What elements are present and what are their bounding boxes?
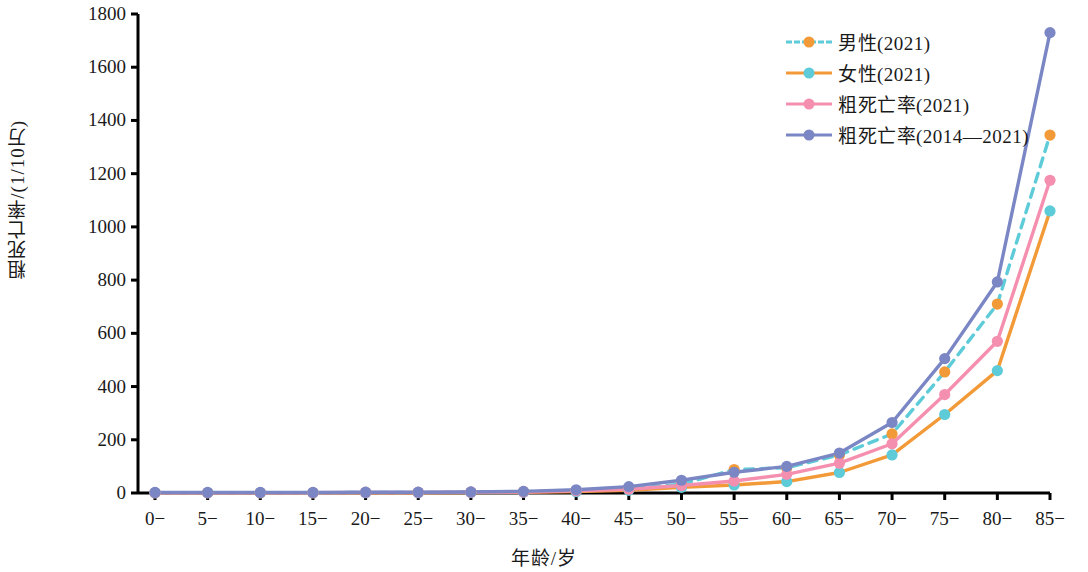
legend-item[interactable]: 粗死亡率(2014—2021) [786, 119, 1029, 150]
legend-label: 男性(2021) [838, 28, 931, 55]
series-marker [992, 276, 1003, 287]
series-marker [255, 487, 266, 498]
series-marker [886, 417, 897, 428]
series-line [155, 135, 1050, 493]
series-marker [834, 458, 845, 469]
series-marker [834, 447, 845, 458]
legend-dot-icon [804, 67, 815, 78]
series-marker [676, 475, 687, 486]
legend-key-icon [786, 95, 832, 113]
series-marker [623, 481, 634, 492]
series-marker [571, 484, 582, 495]
series-marker [886, 438, 897, 449]
series-marker [781, 461, 792, 472]
legend-label: 粗死亡率(2014—2021) [838, 121, 1029, 148]
series-marker [886, 449, 897, 460]
legend-item[interactable]: 粗死亡率(2021) [786, 88, 1029, 119]
series-marker [413, 487, 424, 498]
series-marker [149, 487, 160, 498]
chart-legend: 男性(2021)女性(2021)粗死亡率(2021)粗死亡率(2014—2021… [786, 26, 1029, 150]
series-marker [939, 389, 950, 400]
series-marker [939, 366, 950, 377]
legend-dot-icon [804, 36, 815, 47]
series-marker [307, 487, 318, 498]
series-marker [729, 467, 740, 478]
legend-item[interactable]: 男性(2021) [786, 26, 1029, 57]
series-marker [886, 428, 897, 439]
series-marker [1044, 27, 1055, 38]
series-marker [1044, 175, 1055, 186]
series-marker [1044, 129, 1055, 140]
series-line [155, 211, 1050, 493]
series-marker [202, 487, 213, 498]
chart-container: 粗死亡率/(1/10万) 年龄/岁 0200400600800100012001… [0, 0, 1088, 572]
series-marker [1044, 205, 1055, 216]
legend-item[interactable]: 女性(2021) [786, 57, 1029, 88]
legend-label: 粗死亡率(2021) [838, 90, 970, 117]
series-marker [939, 409, 950, 420]
series-marker [992, 298, 1003, 309]
series-marker [518, 486, 529, 497]
series-line [155, 180, 1050, 492]
legend-dot-icon [804, 129, 815, 140]
series-marker [992, 336, 1003, 347]
legend-dot-icon [804, 98, 815, 109]
series-marker [939, 353, 950, 364]
legend-key-icon [786, 33, 832, 51]
series-marker [992, 365, 1003, 376]
series-marker [465, 486, 476, 497]
legend-label: 女性(2021) [838, 59, 931, 86]
series-marker [360, 487, 371, 498]
legend-key-icon [786, 64, 832, 82]
legend-key-icon [786, 126, 832, 144]
